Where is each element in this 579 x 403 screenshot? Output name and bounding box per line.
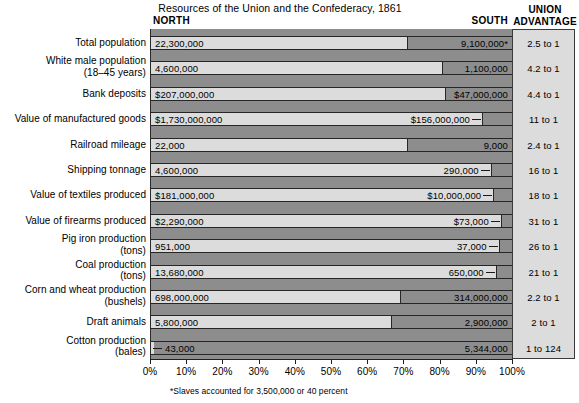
axis-tick <box>440 359 441 364</box>
south-leader-dash <box>489 246 498 247</box>
row-label: Pig iron production(tons) <box>2 233 146 256</box>
stacked-bar: $1,730,000,000$156,000,000 <box>151 112 513 126</box>
north-value-label: 698,000,000 <box>155 291 209 305</box>
union-advantage-value: 16 to 1 <box>513 164 574 178</box>
south-leader-dash <box>483 195 492 196</box>
north-value-label: $2,290,000 <box>155 215 204 229</box>
south-leader-dash <box>486 272 495 273</box>
south-value-label: 2,900,000 <box>465 316 508 330</box>
row-label: Coal production(tons) <box>2 259 146 282</box>
south-value-label: 37,000 <box>457 240 487 254</box>
footnote: *Slaves accounted for 3,500,000 or 40 pe… <box>170 386 348 396</box>
bar-segment-north <box>151 215 502 227</box>
axis-tick-label: 40% <box>275 366 315 377</box>
axis-tick-label: 90% <box>456 366 496 377</box>
union-advantage-value: 2.4 to 1 <box>513 139 574 153</box>
row-label-line2: (bales) <box>2 346 146 358</box>
south-value-label: 9,000 <box>484 139 508 153</box>
bar-segment-north <box>151 139 408 151</box>
axis-tick-label: 60% <box>347 366 387 377</box>
chart-row: $1,730,000,000$156,000,000 <box>151 112 513 126</box>
union-advantage-value: 21 to 1 <box>513 266 574 280</box>
south-value-label: 650,000 <box>449 266 484 280</box>
stacked-bar: 951,00037,000 <box>151 239 513 253</box>
north-value-label: 5,800,000 <box>155 316 198 330</box>
north-value-label: $181,000,000 <box>155 189 214 203</box>
axis-tick <box>367 359 368 364</box>
stacked-bar: $181,000,000$10,000,000 <box>151 188 513 202</box>
chart-row: 13,680,000650,000 <box>151 265 513 279</box>
axis-tick <box>295 359 296 364</box>
chart-row: 22,0009,000 <box>151 138 513 152</box>
row-label-line1: Total population <box>75 37 146 48</box>
chart-row: 43,0005,344,000 <box>151 341 513 355</box>
union-advantage-value: 2 to 1 <box>513 316 574 330</box>
axis-tick-label: 30% <box>239 366 279 377</box>
axis-tick-label: 80% <box>420 366 460 377</box>
south-leader-dash <box>491 221 500 222</box>
union-advantage-value: 4.4 to 1 <box>513 88 574 102</box>
x-axis: 0%10%20%30%40%50%60%70%80%90%100% <box>150 359 513 360</box>
axis-tick-label: 100% <box>492 366 532 377</box>
chart-row: 4,600,000290,000 <box>151 163 513 177</box>
stacked-bar: 4,600,000290,000 <box>151 163 513 177</box>
north-leader-dash <box>153 348 162 349</box>
union-advantage-value: 1 to 124 <box>513 342 574 356</box>
stacked-bar: $2,290,000$73,000 <box>151 214 513 228</box>
union-advantage-value: 31 to 1 <box>513 215 574 229</box>
south-value-label: 9,100,000* <box>461 37 508 51</box>
north-value-label: 4,600,000 <box>155 62 198 76</box>
row-label: Value of manufactured goods <box>2 113 146 125</box>
stacked-bar: 698,000,000314,000,000 <box>151 290 513 304</box>
south-value-label: 314,000,000 <box>454 291 508 305</box>
chart-row: $2,290,000$73,000 <box>151 214 513 228</box>
chart-row: 22,300,0009,100,000* <box>151 36 513 50</box>
row-label: Value of firearms produced <box>2 215 146 227</box>
row-label: Cotton production(bales) <box>2 335 146 358</box>
north-value-label: 43,000 <box>165 342 195 356</box>
column-header-union-advantage: UNION ADVANTAGE <box>513 4 577 27</box>
north-value-label: 22,000 <box>155 139 185 153</box>
row-label-line1: Draft animals <box>86 316 146 327</box>
row-label: Shipping tonnage <box>2 164 146 176</box>
row-label-line1: Bank deposits <box>83 88 146 99</box>
axis-tick-label: 0% <box>130 366 170 377</box>
row-label-line1: Pig iron production <box>62 233 146 244</box>
axis-tick <box>476 359 477 364</box>
chart-row: $181,000,000$10,000,000 <box>151 188 513 202</box>
chart-row: $207,000,000$47,000,000 <box>151 87 513 101</box>
axis-tick <box>186 359 187 364</box>
row-label-line1: Railroad mileage <box>70 139 146 150</box>
row-label-line2: (tons) <box>2 270 146 282</box>
row-label: Draft animals <box>2 316 146 328</box>
south-leader-dash <box>472 119 481 120</box>
bar-segment-north <box>151 164 492 176</box>
row-label-line1: White male population <box>46 55 146 66</box>
axis-tick <box>331 359 332 364</box>
row-label: Bank deposits <box>2 88 146 100</box>
south-value-label: $10,000,000 <box>427 189 481 203</box>
chart-row: 5,800,0002,900,000 <box>151 315 513 329</box>
south-value-label: $47,000,000 <box>454 88 508 102</box>
bar-segment-north <box>151 240 500 252</box>
chart-title: Resources of the Union and the Confedera… <box>0 2 560 14</box>
stacked-bar: 5,800,0002,900,000 <box>151 315 513 329</box>
row-label-line1: Value of textiles produced <box>30 189 146 200</box>
union-advantage-value: 4.2 to 1 <box>513 62 574 76</box>
stacked-bar: 43,0005,344,000 <box>151 341 513 355</box>
axis-tick-label: 20% <box>202 366 242 377</box>
row-label-line2: (tons) <box>2 245 146 257</box>
north-value-label: 13,680,000 <box>155 266 204 280</box>
row-label: Value of textiles produced <box>2 189 146 201</box>
row-label: Railroad mileage <box>2 139 146 151</box>
south-value-label: 290,000 <box>444 164 479 178</box>
union-advantage-value: 26 to 1 <box>513 240 574 254</box>
stacked-bar: 22,300,0009,100,000* <box>151 36 513 50</box>
row-label: Corn and wheat production(bushels) <box>2 284 146 307</box>
row-label-line1: Value of manufactured goods <box>15 113 146 124</box>
column-header-south: SOUTH <box>400 15 508 26</box>
column-header-north: NORTH <box>153 15 190 26</box>
row-label-line1: Coal production <box>75 259 146 270</box>
union-advantage-value: 2.5 to 1 <box>513 37 574 51</box>
chart-page: Resources of the Union and the Confedera… <box>0 0 579 403</box>
